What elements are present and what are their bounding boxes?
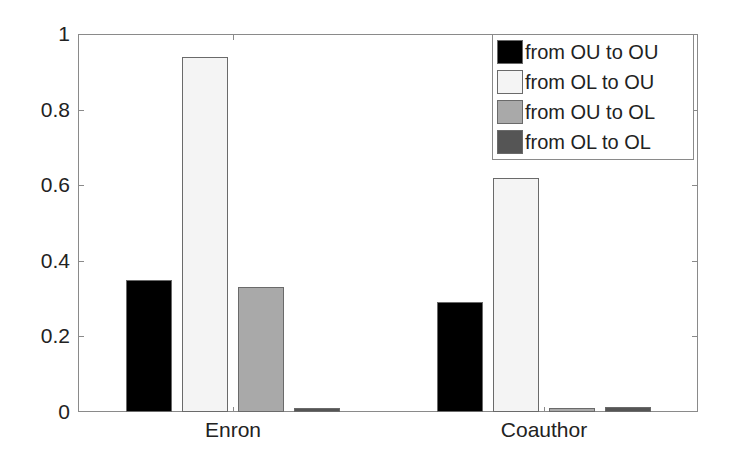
x-tick-label-enron: Enron: [205, 418, 261, 442]
y-tick-mark: [79, 185, 84, 186]
y-tick-mark: [692, 261, 697, 262]
legend: from OU to OUfrom OL to OUfrom OU to OLf…: [492, 34, 694, 160]
bar-coauthor-series-2: [549, 408, 595, 412]
legend-item: from OL to OU: [497, 69, 654, 95]
legend-swatch: [497, 40, 523, 64]
y-tick-mark: [79, 336, 84, 337]
y-tick-mark: [692, 336, 697, 337]
y-tick-mark: [79, 261, 84, 262]
bar-enron-series-1: [182, 57, 228, 412]
legend-item: from OU to OL: [497, 99, 655, 125]
y-tick-label: 0.8: [41, 98, 70, 122]
y-tick-label: 0.6: [41, 173, 70, 197]
bar-chart: 00.20.40.60.81 EnronCoauthor from OU to …: [0, 0, 731, 462]
legend-label: from OL to OL: [525, 131, 651, 154]
legend-label: from OU to OU: [525, 41, 658, 64]
legend-label: from OU to OL: [525, 101, 655, 124]
x-tick-label-coauthor: Coauthor: [501, 418, 587, 442]
y-tick-label: 0.2: [41, 324, 70, 348]
bar-coauthor-series-0: [437, 302, 483, 412]
legend-label: from OL to OU: [525, 71, 654, 94]
x-tick-mark: [233, 35, 234, 40]
x-tick-mark: [544, 407, 545, 412]
legend-swatch: [497, 100, 523, 124]
legend-swatch: [497, 130, 523, 154]
legend-swatch: [497, 70, 523, 94]
x-tick-mark: [233, 407, 234, 412]
legend-item: from OL to OL: [497, 129, 651, 155]
y-tick-label: 1: [58, 22, 70, 46]
bar-enron-series-3: [294, 408, 340, 412]
y-tick-label: 0.4: [41, 249, 70, 273]
y-tick-label: 0: [58, 400, 70, 424]
bar-enron-series-0: [126, 280, 172, 412]
y-tick-mark: [692, 185, 697, 186]
y-tick-mark: [79, 110, 84, 111]
bar-enron-series-2: [238, 287, 284, 412]
legend-item: from OU to OU: [497, 39, 658, 65]
bar-coauthor-series-1: [493, 178, 539, 412]
bar-coauthor-series-3: [605, 407, 651, 412]
